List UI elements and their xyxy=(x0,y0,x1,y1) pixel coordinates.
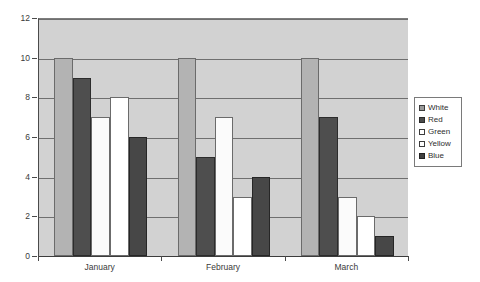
y-axis-tick-label: 0 xyxy=(0,252,30,261)
legend-label: Red xyxy=(428,116,443,124)
bar-chart: 024681012 JanuaryFebruaryMarch WhiteRedG… xyxy=(0,0,480,282)
x-axis-tick-mark xyxy=(285,256,286,261)
legend-swatch-icon xyxy=(419,141,425,147)
bar-february-yellow xyxy=(233,197,252,257)
bar-february-blue xyxy=(252,177,271,256)
y-axis-tick-label: 10 xyxy=(0,53,30,62)
legend-swatch-icon xyxy=(419,117,425,123)
bar-january-blue xyxy=(129,137,148,256)
legend-label: Yellow xyxy=(428,140,451,148)
legend-label: Blue xyxy=(428,152,444,160)
x-axis-category-label: January xyxy=(85,263,115,272)
bar-february-white xyxy=(178,58,197,256)
legend-swatch-icon xyxy=(419,153,425,159)
y-axis-tick-mark xyxy=(32,216,37,217)
legend-item-yellow[interactable]: Yellow xyxy=(419,138,458,150)
x-axis-tick-mark xyxy=(161,256,162,261)
plot-area xyxy=(38,18,408,256)
bar-march-yellow xyxy=(357,216,376,256)
legend-item-green[interactable]: Green xyxy=(419,126,458,138)
legend-label: Green xyxy=(428,128,450,136)
legend-swatch-icon xyxy=(419,105,425,111)
x-axis-tick-mark xyxy=(408,256,409,261)
legend-item-white[interactable]: White xyxy=(419,102,458,114)
bar-january-green xyxy=(91,117,110,256)
y-axis-tick-label: 4 xyxy=(0,172,30,181)
bar-march-red xyxy=(319,117,338,256)
gridline xyxy=(39,98,408,99)
bar-february-red xyxy=(196,157,215,256)
y-axis-tick-label: 8 xyxy=(0,93,30,102)
bar-january-white xyxy=(54,58,73,256)
y-axis-tick-mark xyxy=(32,256,37,257)
bar-march-green xyxy=(338,197,357,257)
y-axis-tick-mark xyxy=(32,58,37,59)
gridline xyxy=(39,19,408,20)
legend-swatch-icon xyxy=(419,129,425,135)
legend-item-blue[interactable]: Blue xyxy=(419,150,458,162)
y-axis-tick-label: 6 xyxy=(0,133,30,142)
y-axis-tick-mark xyxy=(32,18,37,19)
x-axis-tick-mark xyxy=(38,256,39,261)
gridline xyxy=(39,59,408,60)
x-axis-category-label: February xyxy=(206,263,240,272)
x-axis-line xyxy=(38,256,409,257)
y-axis-tick-mark xyxy=(32,97,37,98)
y-axis-tick-label: 12 xyxy=(0,14,30,23)
y-axis-tick-mark xyxy=(32,177,37,178)
bar-january-yellow xyxy=(110,97,129,256)
y-axis-tick-mark xyxy=(32,137,37,138)
x-axis-category-label: March xyxy=(335,263,359,272)
bar-march-blue xyxy=(375,236,394,256)
bar-january-red xyxy=(73,78,92,257)
legend-item-red[interactable]: Red xyxy=(419,114,458,126)
bar-february-green xyxy=(215,117,234,256)
bar-march-white xyxy=(301,58,320,256)
legend-label: White xyxy=(428,104,448,112)
legend: WhiteRedGreenYellowBlue xyxy=(414,97,462,167)
y-axis-tick-label: 2 xyxy=(0,212,30,221)
